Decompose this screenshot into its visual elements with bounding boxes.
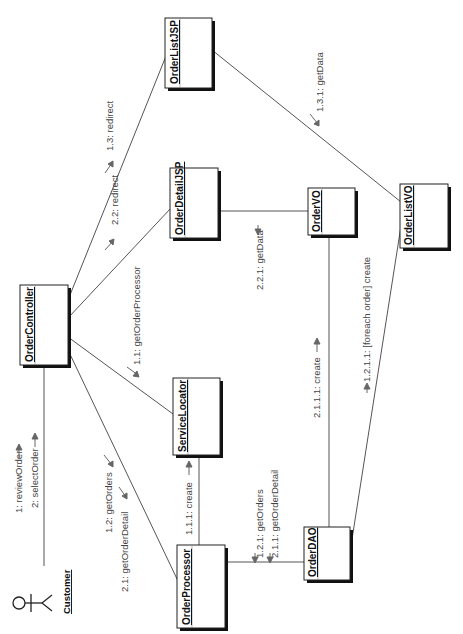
link-controller-servicelocator (68, 337, 173, 414)
arrow-up-icon (32, 433, 38, 447)
object-servicelocator[interactable]: ServiceLocator (173, 378, 223, 458)
arrow-up-icon (314, 338, 320, 352)
object-orderdao[interactable]: OrderDAO (304, 527, 353, 583)
message-1-2-1-1: 1.2.1.1: [foreach order] create (361, 257, 372, 382)
link-orderlistjsp-orderlistvo (212, 50, 401, 202)
object-name: OrderListVO (403, 185, 414, 245)
arrow-up-right-icon (105, 161, 113, 173)
stick-figure-icon (13, 594, 52, 612)
message-1-3-1: 1.3.1: getData (314, 52, 325, 112)
object-name: OrderListJSP (169, 20, 180, 84)
object-name: ServiceLocator (177, 380, 188, 452)
object-orderlistvo[interactable]: OrderListVO (400, 184, 451, 251)
arrow-up-right-icon (105, 239, 114, 250)
message-2-1-1-1: 2.1.1.1: create (311, 357, 322, 418)
object-orderdetailjsp[interactable]: OrderDetailJSP (170, 161, 221, 241)
message-1-1: 1.1: getOrderProcessor (131, 266, 142, 365)
message-2-2: 2.2: redirect (109, 174, 120, 225)
arrow-up-icon (364, 383, 370, 393)
object-name: OrderDAO (307, 527, 318, 577)
links (44, 50, 401, 581)
arrow-up-icon (186, 461, 192, 475)
message-2-1-1: 2.1.1: getOrderDetail (269, 470, 280, 558)
message-1-2: 1.2: getOrders (103, 472, 114, 533)
message-1-3: 1.3: redirect (104, 100, 115, 151)
message-1-1-1: 1.1.1: create (183, 482, 194, 535)
message-1-2-1: 1.2.1: getOrders (254, 489, 265, 558)
message-1: 1: reviewOrder (13, 451, 24, 513)
arrow-down-right-icon (310, 114, 319, 126)
arrow-down-right-icon (127, 367, 139, 377)
object-orderlistjsp[interactable]: OrderListJSP (165, 18, 215, 91)
object-name: OrderVO (311, 190, 322, 232)
object-ordercontroller[interactable]: OrderController (20, 285, 71, 368)
object-ordervo[interactable]: OrderVO (308, 188, 358, 238)
arrow-down-right-icon (104, 455, 113, 467)
actor-customer[interactable]: Customer (13, 569, 72, 614)
actor-name: Customer (61, 569, 72, 614)
collaboration-diagram: OrderListJSP OrderDetailJSP OrderVO Orde… (0, 0, 463, 634)
message-2-1: 2.1: getOrderDetail (119, 512, 130, 592)
arrow-down-right-icon (119, 487, 127, 499)
link-orderdao-orderlistvo (350, 226, 401, 552)
message-2-2-1: 2.2.1: getData (254, 230, 265, 290)
object-name: OrderController (24, 287, 35, 362)
object-orderprocessor[interactable]: OrderProcessor (177, 545, 228, 631)
object-name: OrderProcessor (181, 549, 192, 625)
message-2: 2: selectOrder (29, 448, 40, 508)
object-name: OrderDetailJSP (174, 161, 185, 235)
